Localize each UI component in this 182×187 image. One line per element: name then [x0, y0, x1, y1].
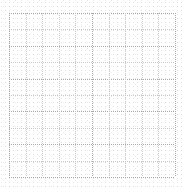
- grid-line-horizontal: [9, 128, 175, 129]
- paper-texture: [0, 0, 182, 187]
- grid-line-horizontal: [9, 29, 175, 30]
- grid-line-vertical: [175, 13, 176, 177]
- grid-canvas: [0, 0, 182, 187]
- grid-line-vertical: [125, 13, 126, 177]
- grid-line-horizontal: [9, 95, 175, 96]
- grid-line-horizontal: [9, 161, 175, 162]
- grid-line-horizontal: [9, 79, 175, 80]
- grid-line-horizontal: [9, 111, 175, 112]
- grid-line-vertical: [158, 13, 159, 177]
- grid-line-horizontal: [9, 46, 175, 47]
- grid-line-vertical: [9, 13, 10, 177]
- grid-line-vertical: [142, 13, 143, 177]
- grid-line-horizontal: [9, 177, 175, 178]
- grid-line-horizontal: [9, 144, 175, 145]
- grid-line-horizontal: [9, 62, 175, 63]
- grid-line-horizontal: [9, 13, 175, 14]
- grid-line-vertical: [75, 13, 76, 177]
- dotted-grid: [0, 0, 182, 187]
- grid-line-vertical: [42, 13, 43, 177]
- grid-line-vertical: [26, 13, 27, 177]
- grid-line-vertical: [92, 13, 93, 177]
- grid-line-vertical: [59, 13, 60, 177]
- grid-line-vertical: [109, 13, 110, 177]
